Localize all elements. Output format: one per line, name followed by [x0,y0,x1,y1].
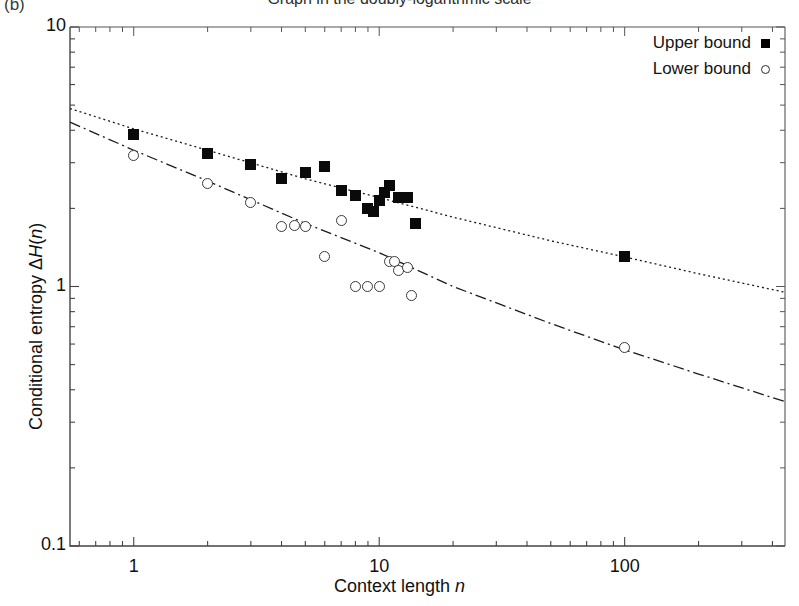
upper-bound-point [410,218,421,229]
filled-square-marker-icon [761,39,770,48]
lower-bound-fit [70,122,785,402]
x-tick-label-100: 100 [585,556,665,577]
y-axis-label: Conditional entropy ΔH(n) [26,223,47,430]
legend-label-lower-bound: Lower bound [653,59,751,79]
lower-bound-point [289,220,300,231]
lower-bound-point [374,281,385,292]
y-tick-label-1: 1 [10,275,66,296]
upper-bound-point [300,167,311,178]
upper-bound-point [128,129,139,140]
lower-bound-point [402,262,413,273]
upper-bound-point [402,192,413,203]
open-circle-marker-icon [761,65,770,74]
plot-svg [0,0,799,606]
upper-bound-fit [70,109,785,293]
upper-bound-point [336,185,347,196]
legend-label-upper-bound: Upper bound [653,33,751,53]
upper-bound-point [384,180,395,191]
upper-bound-point [350,190,361,201]
lower-bound-point [336,215,347,226]
legend-item-lower-bound: Lower bound [600,56,770,82]
upper-bound-point [368,206,379,217]
legend-item-upper-bound: Upper bound [600,30,770,56]
legend: Upper bound Lower bound [600,30,770,82]
lower-bound-point [350,281,361,292]
lower-bound-point [202,178,213,189]
upper-bound-point [276,173,287,184]
x-tick-label-10: 10 [339,556,419,577]
upper-bound-point [619,251,630,262]
y-tick-label-0_1: 0.1 [10,534,66,555]
x-tick-label-1: 1 [94,556,174,577]
figure-container: (b) Graph in the doubly-logarithmic scal… [0,0,799,606]
x-axis-label: Context length n [0,576,799,597]
lower-bound-point [300,221,311,232]
upper-bound-point [245,159,256,170]
y-tick-label-10: 10 [10,15,66,36]
upper-bound-point [319,161,330,172]
upper-bound-point [202,148,213,159]
